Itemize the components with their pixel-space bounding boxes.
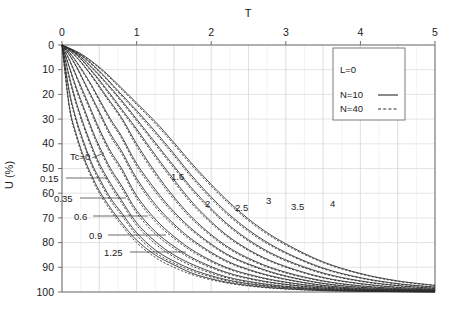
- curve-label: 2.5: [235, 202, 248, 213]
- curve-label: 0.15: [40, 173, 59, 184]
- y-tick-label: 40: [42, 137, 54, 149]
- curve-label: 3: [266, 195, 271, 206]
- y-tick-label: 90: [42, 261, 54, 273]
- y-axis-title: U (%): [3, 161, 15, 189]
- x-tick-label: 3: [283, 26, 289, 38]
- curve-label: 4: [330, 198, 335, 209]
- legend-entry-0-label: N=10: [340, 89, 363, 100]
- x-tick-label: 5: [432, 26, 438, 38]
- curve-label: 1.6: [171, 171, 184, 182]
- legend-entry-1-label: N=40: [340, 103, 363, 114]
- curve-label: 0.9: [89, 230, 102, 241]
- y-tick-label: 70: [42, 212, 54, 224]
- y-tick-label: 60: [42, 187, 54, 199]
- y-tick-label: 100: [36, 286, 54, 298]
- x-axis-ticks: 012345: [59, 26, 438, 45]
- y-tick-label: 10: [42, 63, 54, 75]
- curve-label: 2: [205, 198, 210, 209]
- y-axis-ticks: 0102030405060708090100: [36, 39, 62, 298]
- x-tick-label: 0: [59, 26, 65, 38]
- chart-legend: L=0 N=10 N=40: [333, 48, 405, 120]
- curve-label: 0.6: [74, 211, 87, 222]
- chart-canvas: 012345 0102030405060708090100 T U (%) Tc…: [0, 0, 450, 313]
- curve-label: 0.35: [54, 193, 73, 204]
- y-tick-label: 0: [48, 39, 54, 51]
- x-tick-label: 1: [134, 26, 140, 38]
- legend-parameter-label: L=0: [340, 64, 356, 75]
- y-tick-label: 20: [42, 88, 54, 100]
- consolidation-chart-figure: 012345 0102030405060708090100 T U (%) Tc…: [0, 0, 450, 313]
- y-tick-label: 30: [42, 113, 54, 125]
- curve-labels: Tc=00.150.350.60.91.251.622.533.54: [40, 151, 335, 258]
- x-tick-label: 4: [357, 26, 363, 38]
- y-tick-label: 80: [42, 236, 54, 248]
- curve-label: 1.25: [104, 247, 123, 258]
- x-tick-label: 2: [208, 26, 214, 38]
- curve-label: 3.5: [291, 201, 304, 212]
- curve-label: Tc=0: [70, 151, 90, 162]
- x-axis-title: T: [245, 7, 252, 19]
